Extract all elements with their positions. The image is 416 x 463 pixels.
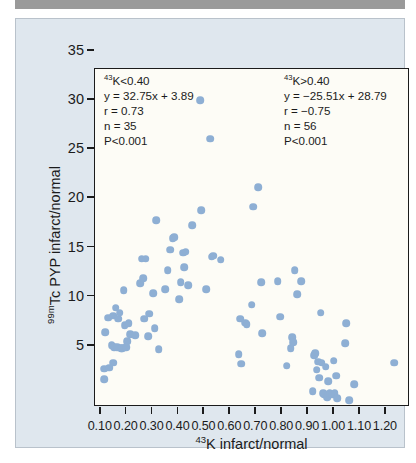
y-axis-tick	[87, 246, 94, 248]
scatter-point	[345, 396, 353, 404]
scatter-point	[102, 329, 110, 337]
x-axis-tick	[202, 407, 204, 414]
x-axis-tick	[177, 407, 179, 414]
y-axis-tick	[87, 98, 94, 100]
y-axis-tick-label: 35	[54, 42, 84, 58]
annotation-right-group: 43K>0.40 y = −25.51x + 28.79 r = −0.75 n…	[284, 73, 387, 148]
y-axis-tick-label-text: 20	[54, 189, 84, 205]
x-axis-tick	[151, 407, 153, 414]
annotation-left-n: n = 35	[104, 118, 194, 133]
y-axis-tick	[87, 196, 94, 198]
scatter-point	[150, 289, 158, 297]
scatter-point	[238, 360, 246, 368]
scatter-point	[116, 309, 124, 317]
y-axis-tick-label-text: 5	[54, 337, 84, 353]
annotation-left-group: 43K<0.40 y = 32.75x + 3.89 r = 0.73 n = …	[104, 73, 194, 148]
scatter-point	[217, 256, 225, 264]
scatter-point	[334, 394, 342, 402]
scatter-point	[317, 309, 325, 317]
annotation-right-r: r = −0.75	[284, 103, 387, 118]
scatter-point	[243, 321, 251, 329]
y-axis-tick	[87, 295, 94, 297]
y-axis-tick-label-text: 25	[54, 140, 84, 156]
scatter-point	[290, 338, 298, 346]
scatter-point	[181, 264, 189, 272]
annotation-right-equation: y = −25.51x + 28.79	[284, 88, 387, 103]
scatter-point	[274, 277, 282, 285]
scatter-point	[197, 207, 205, 215]
y-axis-title-text: Tc PYP infarct/normal	[47, 166, 63, 305]
annotation-left-superscript: 43	[104, 73, 113, 82]
y-axis-tick-label-text: 15	[54, 239, 84, 255]
scatter-point	[144, 332, 152, 340]
y-axis-tick-label-text: 30	[54, 91, 84, 107]
scatter-point	[313, 366, 321, 374]
y-axis-tick-label: 5	[54, 337, 84, 353]
y-axis-title-superscript: 99m	[45, 305, 56, 324]
scatter-point	[166, 246, 174, 254]
annotation-right-p: P<0.001	[284, 133, 387, 148]
scatter-point	[309, 387, 317, 395]
y-axis-tick-label-text: 35	[54, 42, 84, 58]
y-axis-tick-label: 10	[54, 288, 84, 304]
scatter-point	[249, 203, 257, 211]
top-grey-bar	[15, 0, 405, 9]
scatter-point	[257, 278, 265, 286]
y-axis-tick	[87, 49, 94, 51]
scatter-point	[100, 376, 108, 384]
y-axis-tick	[87, 147, 94, 149]
y-axis-tick-label-text: 10	[54, 288, 84, 304]
scatter-point	[207, 135, 215, 143]
x-axis-tick	[99, 407, 101, 414]
scatter-point	[120, 286, 128, 294]
scatter-point	[350, 381, 358, 389]
scatter-point	[209, 252, 217, 260]
scatter-point	[332, 372, 340, 380]
scatter-point	[325, 378, 333, 386]
scatter-point	[139, 274, 147, 282]
scatter-point	[124, 337, 132, 345]
scatter-point	[343, 320, 351, 328]
x-axis-tick	[358, 407, 360, 414]
x-axis-tick	[228, 407, 230, 414]
scatter-point	[203, 285, 211, 293]
scatter-point	[248, 301, 256, 309]
y-axis-tick	[87, 344, 94, 346]
scatter-point	[146, 310, 154, 318]
annotation-left-header: 43K<0.40	[104, 73, 194, 88]
scatter-point	[185, 281, 193, 289]
scatter-point	[182, 248, 190, 256]
scatter-point	[258, 330, 266, 338]
scatter-point	[125, 320, 133, 328]
scatter-point	[131, 331, 139, 339]
scatter-point	[322, 363, 330, 371]
x-axis-tick	[384, 407, 386, 414]
scatter-point	[235, 350, 243, 358]
scatter-point	[297, 277, 305, 285]
scatter-point	[109, 359, 117, 367]
scatter-point	[312, 349, 320, 357]
scatter-point	[170, 233, 178, 241]
x-axis-tick-label-text: 1.20	[373, 419, 397, 433]
scatter-point	[255, 183, 263, 191]
annotation-right-header-text: K>0.40	[293, 74, 330, 87]
x-axis-tick	[332, 407, 334, 414]
scatter-point	[161, 285, 169, 293]
y-axis-tick-label: 30	[54, 91, 84, 107]
annotation-left-p: P<0.001	[104, 133, 194, 148]
annotation-right-superscript: 43	[284, 73, 293, 82]
figure-root: 99mTc PYP infarct/normal 5101520253035 0…	[0, 0, 416, 463]
scatter-point	[164, 267, 172, 275]
scatter-point	[175, 295, 183, 303]
scatter-point	[155, 345, 163, 353]
x-axis-title-superscript: 43	[195, 434, 206, 445]
scatter-point	[341, 339, 349, 347]
scatter-point	[277, 313, 285, 321]
scatter-point	[315, 374, 323, 382]
scatter-point	[291, 267, 299, 275]
annotation-left-r: r = 0.73	[104, 103, 194, 118]
x-axis-tick	[254, 407, 256, 414]
x-axis-tick	[125, 407, 127, 414]
y-axis-tick-label: 15	[54, 239, 84, 255]
x-axis-title: 43K infarct/normal	[94, 436, 409, 452]
